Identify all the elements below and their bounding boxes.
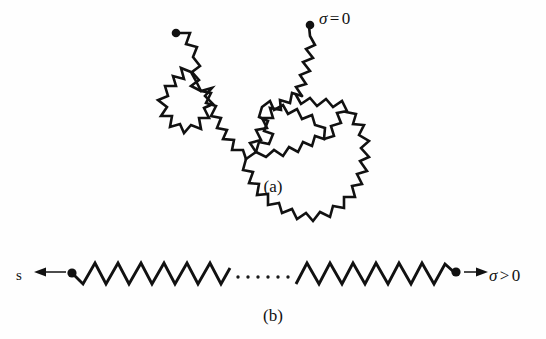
figure-root: σ=0 σ>0 s (a) (b)	[0, 0, 546, 339]
coil-connector-path	[201, 91, 246, 159]
coil-right-tail-path	[296, 26, 315, 96]
chain-left-zigzag	[72, 263, 230, 284]
panel-b-extended-chain	[34, 263, 488, 284]
panel-caption-a: (a)	[0, 178, 546, 195]
tension-label-s: s	[16, 268, 22, 283]
right-tension-arrow-head	[476, 268, 488, 277]
figure-canvas	[0, 0, 546, 339]
sigma-symbol: σ	[489, 266, 498, 285]
coil-end-dot	[306, 21, 315, 30]
sigma-value: 0	[512, 266, 521, 285]
coil-large-blob-path	[243, 95, 369, 221]
sigma-value: 0	[342, 9, 351, 28]
chain-right-dot	[451, 267, 460, 276]
left-tension-arrow-head	[34, 268, 46, 277]
sigma-symbol: σ	[319, 9, 328, 28]
chain-ellipsis	[236, 275, 289, 278]
coil-start-dot	[172, 29, 181, 38]
sigma-zero-label: σ=0	[319, 10, 351, 27]
sigma-relation: >	[498, 266, 512, 285]
sigma-relation: =	[328, 9, 342, 28]
chain-right-zigzag	[296, 263, 455, 284]
panel-caption-b: (b)	[0, 307, 546, 324]
coil-left-loop-path	[158, 68, 213, 133]
sigma-positive-label: σ>0	[489, 267, 521, 284]
